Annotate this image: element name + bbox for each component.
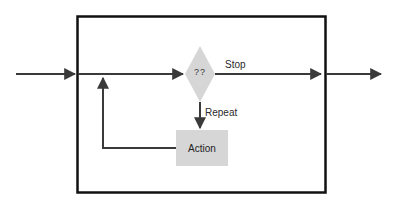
loop-boundary-box	[78, 17, 326, 193]
action-label: Action	[188, 143, 216, 154]
stop-label: Stop	[225, 60, 246, 70]
action-box: Action	[176, 130, 228, 166]
repeat-label: Repeat	[205, 108, 237, 118]
decision-label: ??	[186, 68, 214, 77]
flowchart-diagram	[0, 0, 396, 200]
feedback-loop-arrow	[103, 78, 176, 148]
